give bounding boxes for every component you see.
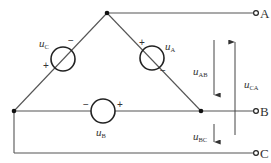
circuit-diagram: A B C uC − + uA + − uB − + uAB uCA uBC: [0, 0, 271, 163]
source-uC-label: uC: [39, 37, 49, 50]
source-uA-plus: +: [139, 37, 145, 48]
wire-triangle-left: [14, 13, 107, 111]
node-right: [199, 109, 204, 114]
source-uB-plus: +: [117, 99, 123, 110]
source-uA-label: uA: [165, 40, 176, 53]
label-uAB: uAB: [193, 65, 208, 78]
source-uA-minus: −: [160, 65, 166, 76]
terminal-B-label: B: [260, 104, 269, 119]
wires: [14, 13, 253, 153]
terminal-A: [254, 11, 259, 16]
source-uB-minus: −: [83, 99, 89, 110]
voltage-source-uB: [91, 99, 115, 123]
terminal-A-label: A: [260, 6, 270, 21]
terminal-C: [254, 151, 259, 156]
wire-triangle-right: [107, 13, 201, 111]
label-uCA: uCA: [244, 78, 259, 91]
source-uB-label: uB: [96, 126, 107, 139]
source-uC-minus: −: [68, 35, 74, 46]
terminal-C-label: C: [260, 146, 269, 161]
label-uBC: uBC: [193, 130, 207, 143]
source-uC-plus: +: [43, 60, 49, 71]
node-top: [105, 11, 110, 16]
terminal-B: [254, 109, 259, 114]
node-left: [12, 109, 17, 114]
